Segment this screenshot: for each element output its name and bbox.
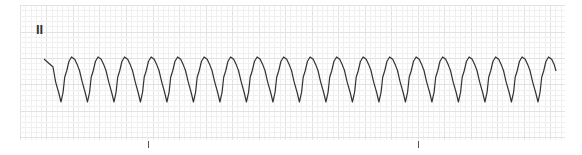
lead-label: II (36, 22, 43, 37)
time-marker-tick (418, 141, 419, 148)
ecg-chart (0, 0, 582, 155)
time-marker-tick (148, 141, 149, 148)
